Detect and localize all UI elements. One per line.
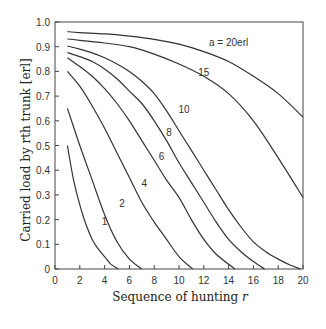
y-tick-label: 0.4 [36,165,50,176]
curve-label-6: 6 [159,151,165,162]
curve-a-2 [67,108,141,269]
x-tick-label: 16 [248,275,260,286]
plot-frame [55,22,303,269]
x-axis-ticks: 02468101214161820 [52,265,309,286]
x-tick-label: 0 [52,275,58,286]
y-tick-label: 0.1 [36,239,50,250]
x-tick-label: 20 [297,275,309,286]
x-axis-title: Sequence of hunting r [112,290,249,304]
x-tick-label: 8 [151,275,157,286]
y-tick-label: 0.2 [36,215,50,226]
y-tick-label: 0 [44,264,50,275]
x-tick-label: 6 [127,275,133,286]
x-tick-label: 2 [77,275,83,286]
curve-a-10 [67,46,300,269]
curve-label-1: 1 [102,216,108,227]
y-tick-label: 1.0 [36,17,50,28]
y-tick-label: 0.6 [36,116,50,127]
curve-label-4: 4 [141,178,147,189]
x-tick-label: 10 [173,275,185,286]
curve-label-10: 10 [178,104,190,115]
y-tick-label: 0.9 [36,42,50,53]
x-tick-label: 12 [198,275,210,286]
curve-a-4 [67,71,192,269]
y-tick-label: 0.8 [36,66,50,77]
y-axis-ticks: 00.10.20.30.40.50.60.70.80.91.0 [36,17,59,275]
curve-label-8: 8 [166,127,172,138]
x-tick-label: 4 [102,275,108,286]
y-tick-label: 0.5 [36,141,50,152]
chart: 02468101214161820 00.10.20.30.40.50.60.7… [0,0,326,329]
curve-label-15: 15 [198,67,210,78]
curve-a-8 [67,53,264,269]
x-tick-label: 14 [223,275,235,286]
x-tick-label: 18 [273,275,285,286]
curves [67,32,303,269]
y-tick-label: 0.3 [36,190,50,201]
curve-label-2: 2 [119,198,125,209]
annotation-label: a = 20erl [209,37,248,48]
y-tick-label: 0.7 [36,91,50,102]
curve-a-1 [67,146,118,270]
y-axis-title: Carried load by rth trunk [erl] [19,58,33,241]
curve-labels: 124681015 [102,67,210,226]
